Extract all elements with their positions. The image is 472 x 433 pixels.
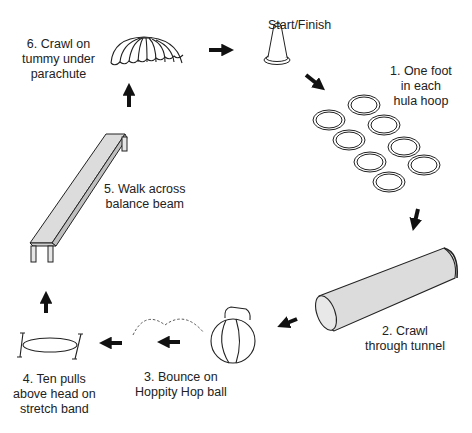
arrow-tunnel-to-ball <box>282 319 297 325</box>
label-station-3: 3. Bounce on Hoppity Hop ball <box>135 370 227 400</box>
label-line: Start/Finish <box>268 18 331 33</box>
label-line: 1. One foot <box>390 64 452 79</box>
hula-hoop <box>313 110 345 130</box>
label-line: Hoppity Hop ball <box>135 385 227 400</box>
label-line: hula hoop <box>390 94 452 109</box>
label-line: 6. Crawl on <box>22 37 95 52</box>
hula-hoop <box>373 172 405 192</box>
arrow-hoops-to-tunnel <box>414 209 418 226</box>
label-line: through tunnel <box>365 339 445 354</box>
label-station-5: 5. Walk across balance beam <box>104 182 186 212</box>
label-line: stretch band <box>13 402 96 417</box>
label-start-finish: Start/Finish <box>268 18 331 33</box>
parachute-icon <box>111 37 183 65</box>
label-line: balance beam <box>104 197 186 212</box>
stretch-band-icon <box>17 333 83 359</box>
label-line: in each <box>390 79 452 94</box>
hula-hoop <box>368 115 400 135</box>
hula-hoop <box>348 95 380 115</box>
label-line: 3. Bounce on <box>135 370 227 385</box>
hula-hoop <box>333 130 365 150</box>
label-line: tummy under <box>22 52 95 67</box>
label-station-2: 2. Crawl through tunnel <box>365 324 445 354</box>
tunnel-icon <box>311 248 457 333</box>
hula-hoops-icon <box>313 95 440 192</box>
arrow-start-to-hoops <box>306 75 321 87</box>
label-line: 4. Ten pulls <box>13 372 96 387</box>
label-line: above head on <box>13 387 96 402</box>
label-line: 5. Walk across <box>104 182 186 197</box>
hula-hoop <box>388 137 420 157</box>
label-line: parachute <box>22 67 95 82</box>
hoppity-ball-icon <box>211 307 255 363</box>
label-station-1: 1. One foot in each hula hoop <box>390 64 452 109</box>
bounce-trail <box>133 319 204 335</box>
hula-hoop <box>354 152 386 172</box>
label-station-4: 4. Ten pulls above head on stretch band <box>13 372 96 417</box>
hula-hoop <box>408 155 440 175</box>
label-station-6: 6. Crawl on tummy under parachute <box>22 37 95 82</box>
label-line: 2. Crawl <box>365 324 445 339</box>
